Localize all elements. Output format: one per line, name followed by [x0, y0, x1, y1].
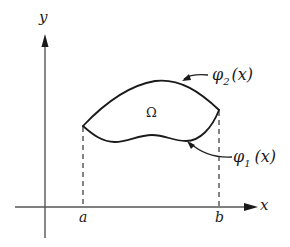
- phi1-annotation: φ1(x): [187, 141, 276, 169]
- phi2-annotation: φ2(x): [182, 65, 253, 87]
- phi1-symbol: φ: [233, 147, 245, 166]
- phi1-argument: (x): [255, 147, 277, 166]
- phi2-argument: (x): [232, 65, 254, 84]
- phi1-leader-line: [190, 143, 232, 157]
- phi2-label: φ2(x): [212, 65, 253, 87]
- phi1-subscript: 1: [244, 158, 250, 169]
- phi2-symbol: φ: [212, 65, 224, 84]
- y-axis-arrow-icon: [42, 34, 49, 47]
- region-label-omega: Ω: [146, 105, 157, 120]
- phi2-subscript: 2: [222, 76, 229, 87]
- tick-label-a: a: [79, 209, 87, 225]
- y-axis: y: [38, 8, 49, 238]
- tick-label-b: b: [215, 209, 224, 225]
- phi1-label: φ1(x): [233, 147, 276, 169]
- phi2-leader-arrow-icon: [182, 74, 191, 81]
- x-axis-label: x: [260, 196, 269, 214]
- x-axis-arrow-icon: [244, 203, 258, 211]
- phi1-leader-arrow-icon: [187, 141, 195, 149]
- y-axis-label: y: [38, 8, 48, 26]
- region-diagram: y x a b Ω φ2(x) φ1(x): [0, 0, 290, 247]
- x-axis: x: [15, 196, 269, 214]
